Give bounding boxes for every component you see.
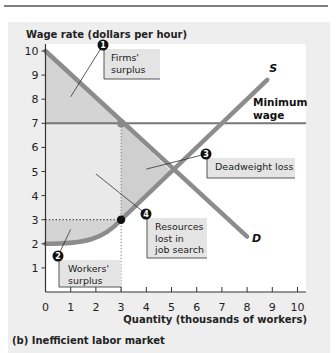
- annotation-text: Workers': [68, 263, 109, 274]
- y-tick-label: 9: [32, 69, 39, 82]
- minimum-wage-label: wage: [253, 109, 284, 121]
- x-tick-label: 9: [269, 301, 276, 314]
- resources-lost-region: [46, 123, 122, 219]
- minimum-wage-label: Minimum: [253, 96, 308, 108]
- y-tick-label: 1: [32, 262, 39, 275]
- annotation-text: job search: [154, 244, 204, 255]
- annotation-text: Deadweight loss: [215, 161, 293, 172]
- annotation-number: 4: [143, 210, 149, 219]
- min-wage-demand-point: [117, 119, 125, 127]
- y-tick-label: 2: [32, 238, 39, 251]
- x-tick-label: 2: [92, 301, 99, 314]
- panel-caption: (b) Inefficient labor market: [12, 335, 165, 346]
- labor-market-chart: SDMinimumwage 01234567891012345678910 Fi…: [0, 0, 336, 353]
- supply-curve-label: S: [269, 62, 277, 75]
- annotation-text: surplus: [68, 275, 103, 286]
- supply-at-3-point: [117, 216, 125, 224]
- x-tick-label: 7: [218, 301, 225, 314]
- x-tick-label: 0: [42, 301, 49, 314]
- y-tick-label: 6: [32, 141, 39, 154]
- y-tick-label: 10: [25, 45, 39, 58]
- y-tick-label: 4: [32, 190, 39, 203]
- x-tick-label: 3: [118, 301, 125, 314]
- x-tick-label: 1: [67, 301, 74, 314]
- annotation-text: lost in: [155, 233, 184, 244]
- annotation-number: 2: [55, 252, 61, 261]
- annotation-text: Resources: [155, 221, 204, 232]
- y-tick-label: 7: [32, 117, 39, 130]
- x-tick-label: 10: [291, 301, 305, 314]
- annotation-number: 3: [203, 150, 209, 159]
- annotation-text: Firms': [111, 52, 139, 63]
- x-tick-label: 5: [168, 301, 175, 314]
- y-tick-label: 3: [32, 214, 39, 227]
- y-tick-label: 5: [32, 166, 39, 179]
- demand-curve-label: D: [252, 232, 261, 245]
- x-axis-title: Quantity (thousands of workers): [123, 314, 307, 325]
- x-tick-label: 4: [143, 301, 150, 314]
- y-tick-label: 8: [32, 93, 39, 106]
- annotation-number: 1: [100, 41, 106, 50]
- y-axis-title: Wage rate (dollars per hour): [26, 29, 187, 40]
- x-tick-label: 6: [193, 301, 200, 314]
- x-tick-label: 8: [244, 301, 251, 314]
- annotation-text: surplus: [111, 64, 146, 75]
